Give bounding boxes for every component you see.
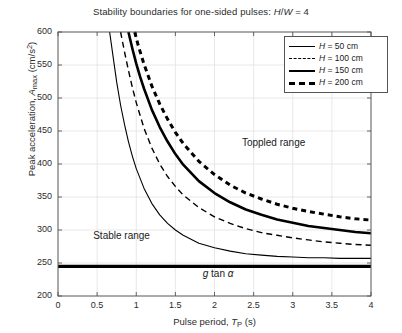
x-tick-label: 0 [41, 300, 75, 310]
annotation-toppled-range: Toppled range [242, 137, 305, 148]
x-axis-label-text: Pulse period, TP (s) [173, 316, 256, 327]
legend-item[interactable]: H = 100 cm [289, 52, 383, 64]
x-tick-label: 3 [276, 300, 310, 310]
y-tick-label: 600 [18, 26, 52, 36]
x-tick-label: 1 [119, 300, 153, 310]
x-tick-label: 4 [354, 300, 388, 310]
legend-item-label: H = 200 cm [319, 77, 363, 87]
x-tick-label: 2.5 [237, 300, 271, 310]
y-axis-label: Peak acceleration, Amax (cm/s2) [21, 9, 39, 209]
y-tick-label: 250 [18, 257, 52, 267]
legend: H = 50 cmH = 100 cmH = 150 cmH = 200 cm [284, 36, 388, 93]
annotation-alpha: α [228, 268, 234, 279]
legend-line-swatch-icon [289, 77, 315, 87]
y-tick-label: 300 [18, 224, 52, 234]
xlabel-units: (s) [242, 316, 256, 327]
x-tick-label: 1.5 [158, 300, 192, 310]
y-tick-label: 550 [18, 59, 52, 69]
y-tick-label: 400 [18, 158, 52, 168]
annotation-g-tan-alpha: g tan α [203, 268, 234, 279]
ylabel-close: ) [26, 42, 37, 45]
y-tick-label: 350 [18, 191, 52, 201]
legend-item[interactable]: H = 200 cm [289, 76, 383, 88]
legend-line-swatch-icon [289, 65, 315, 75]
legend-line-swatch-icon [289, 53, 315, 63]
legend-line-swatch-icon [289, 41, 315, 51]
ylabel-subscript: max [30, 75, 39, 89]
ylabel-exponent: 2 [25, 45, 34, 49]
y-tick-label: 450 [18, 125, 52, 135]
y-tick-label: 500 [18, 92, 52, 102]
legend-item-label: H = 150 cm [319, 65, 363, 75]
annotation-tan: tan [208, 268, 227, 279]
legend-item[interactable]: H = 150 cm [289, 64, 383, 76]
x-tick-label: 2 [198, 300, 232, 310]
legend-item-label: H = 50 cm [319, 41, 358, 51]
xlabel-prefix: Pulse period, [173, 316, 231, 327]
x-tick-label: 3.5 [315, 300, 349, 310]
figure-container: Stability boundaries for one-sided pulse… [0, 0, 402, 333]
annotation-stable-range: Stable range [93, 230, 150, 241]
y-tick-label: 200 [18, 290, 52, 300]
legend-item-label: H = 100 cm [319, 53, 363, 63]
x-tick-label: 0.5 [80, 300, 114, 310]
x-axis-label: Pulse period, TP (s) [58, 311, 371, 329]
legend-item[interactable]: H = 50 cm [289, 40, 383, 52]
